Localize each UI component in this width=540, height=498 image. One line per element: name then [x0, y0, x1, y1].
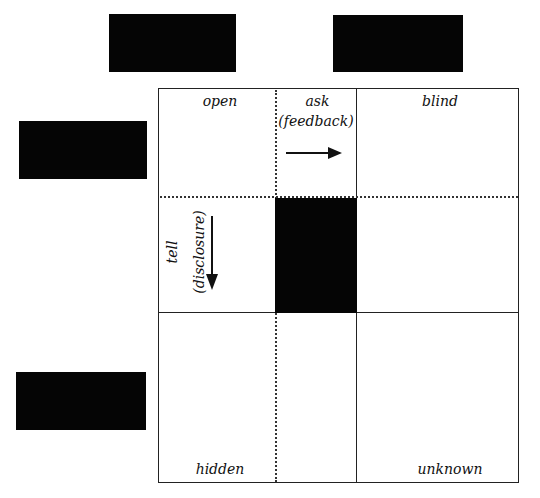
arrow-right-icon — [286, 146, 344, 160]
redacted-column-header-right — [333, 15, 463, 72]
arrow-label-tell: tell — [163, 222, 181, 282]
quadrant-label-unknown: unknown — [400, 460, 500, 479]
redacted-column-header-left — [109, 14, 236, 72]
quadrant-label-blind: blind — [400, 92, 480, 111]
redacted-center-region — [275, 198, 357, 313]
quadrant-label-open: open — [185, 92, 255, 111]
quadrant-label-hidden: hidden — [175, 460, 265, 479]
arrow-down-icon — [205, 216, 219, 292]
redacted-row-header-top — [19, 121, 147, 179]
redacted-row-header-bottom — [16, 372, 146, 430]
arrow-label-ask: ask — [280, 92, 355, 111]
arrow-sublabel-feedback: (feedback) — [275, 112, 357, 131]
